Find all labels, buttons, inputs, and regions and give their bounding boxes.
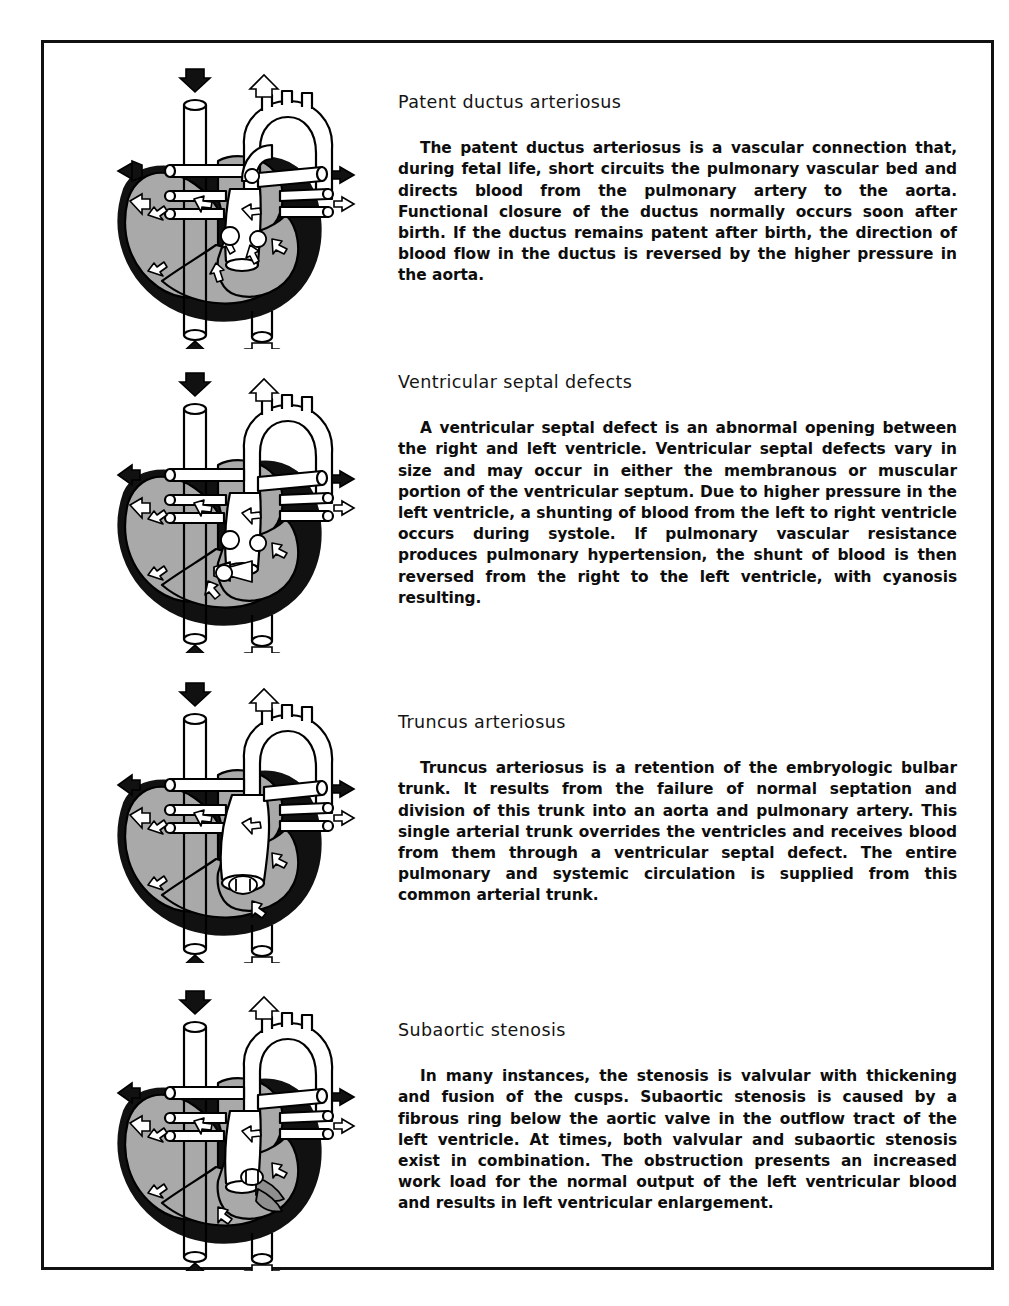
heart-diagram-ventricular-septal-defect — [66, 353, 356, 653]
common-trunk-outflow-arrow — [250, 689, 278, 711]
page-border: Patent ductus arteriosus The patent duct… — [41, 40, 994, 1270]
inferior-vena-cava-inflow-arrow — [180, 1263, 210, 1271]
section-body: A ventricular septal defect is an abnorm… — [398, 418, 957, 609]
section-body: In many instances, the stenosis is valvu… — [398, 1066, 957, 1214]
aortic-valve — [241, 1169, 263, 1185]
right-pulmonary-artery-arrow — [332, 1089, 354, 1105]
left-systemic-artery-arrow — [118, 161, 142, 181]
right-pulmonary-artery-arrow — [332, 167, 354, 183]
heart-figure-svg — [66, 971, 356, 1271]
heart-figure-svg — [66, 353, 356, 653]
superior-vena-cava-inflow-arrow — [180, 373, 210, 396]
descending-aorta-outflow-arrow — [246, 647, 278, 653]
text-column: Truncus arteriosus Truncus arteriosus is… — [356, 663, 991, 907]
aortic-arch-outflow-arrow — [250, 75, 278, 97]
section-heading: Subaortic stenosis — [398, 1021, 957, 1040]
section-body: Truncus arteriosus is a retention of the… — [398, 758, 957, 906]
superior-vena-cava-inflow-arrow — [180, 69, 210, 92]
section-heading: Patent ductus arteriosus — [398, 93, 957, 112]
right-pulmonary-vein-arrow — [334, 501, 354, 515]
heart-figure-svg — [66, 663, 356, 963]
heart-diagram-truncus-arteriosus — [66, 663, 356, 963]
superior-vena-cava-inflow-arrow — [180, 683, 210, 706]
truncal-valve — [229, 876, 257, 894]
section-heading: Truncus arteriosus — [398, 713, 957, 732]
heart-diagram-subaortic-stenosis — [66, 971, 356, 1271]
inferior-vena-cava-inflow-arrow — [180, 955, 210, 963]
aortic-arch-outflow-arrow — [250, 379, 278, 401]
text-column: Ventricular septal defects A ventricular… — [356, 353, 991, 609]
inferior-vena-cava-inflow-arrow — [180, 341, 210, 349]
right-pulmonary-artery-arrow — [332, 781, 354, 797]
right-pulmonary-vein-arrow — [334, 197, 354, 211]
heart-figure-svg — [66, 49, 356, 349]
section-list: Patent ductus arteriosus The patent duct… — [44, 43, 991, 1267]
descending-aorta-outflow-arrow — [246, 343, 278, 349]
section-subaortic-stenosis: Subaortic stenosis In many instances, th… — [44, 961, 991, 1267]
section-body: The patent ductus arteriosus is a vascul… — [398, 138, 957, 286]
text-column: Subaortic stenosis In many instances, th… — [356, 971, 991, 1215]
section-heading: Ventricular septal defects — [398, 373, 957, 392]
inferior-vena-cava-inflow-arrow — [180, 645, 210, 653]
aortic-arch-outflow-arrow — [250, 997, 278, 1019]
section-patent-ductus-arteriosus: Patent ductus arteriosus The patent duct… — [44, 43, 991, 353]
section-truncus-arteriosus: Truncus arteriosus Truncus arteriosus is… — [44, 661, 991, 961]
descending-aorta-outflow-arrow — [246, 957, 278, 963]
descending-aorta-outflow-arrow — [246, 1265, 278, 1271]
right-pulmonary-vein-arrow — [334, 1119, 354, 1133]
heart-diagram-patent-ductus-arteriosus — [66, 49, 356, 349]
text-column: Patent ductus arteriosus The patent duct… — [356, 49, 991, 287]
right-pulmonary-artery-arrow — [332, 471, 354, 487]
right-pulmonary-vein-arrow — [334, 811, 354, 825]
superior-vena-cava-inflow-arrow — [180, 991, 210, 1014]
section-ventricular-septal-defects: Ventricular septal defects A ventricular… — [44, 353, 991, 661]
